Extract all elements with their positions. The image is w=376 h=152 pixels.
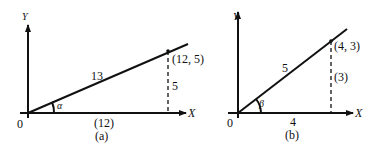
angle-label-a: α xyxy=(57,100,63,111)
opposite-label-a: 5 xyxy=(172,79,178,93)
figure-a: Y 0 13 (12, 5) 5 α (12) X (a) xyxy=(17,11,204,143)
angle-arc-a xyxy=(52,102,54,113)
point-label-a: (12, 5) xyxy=(172,52,204,66)
hypotenuse-label-b: 5 xyxy=(282,61,288,75)
adjacent-label-a: (12) xyxy=(94,116,114,130)
origin-label-a: 0 xyxy=(17,117,23,131)
angle-label-b: β xyxy=(258,98,264,109)
point-marker-b xyxy=(329,39,333,43)
hypotenuse-label-a: 13 xyxy=(91,69,103,83)
point-marker-a xyxy=(166,49,170,53)
x-axis-label-a: X xyxy=(187,106,196,120)
caption-a: (a) xyxy=(95,129,108,143)
adjacent-label-b: 4 xyxy=(290,115,296,129)
y-axis-label-a: Y xyxy=(22,11,29,22)
opposite-label-b: (3) xyxy=(334,70,348,84)
point-label-b: (4, 3) xyxy=(334,39,360,53)
x-axis-label-b: X xyxy=(354,106,363,120)
origin-label-b: 0 xyxy=(227,116,233,130)
diagram-canvas: Y 0 13 (12, 5) 5 α (12) X (a) Y 0 5 (4, … xyxy=(0,0,376,152)
figure-b: Y 0 5 (4, 3) (3) β 4 X (b) xyxy=(227,11,363,142)
caption-b: (b) xyxy=(285,128,299,142)
